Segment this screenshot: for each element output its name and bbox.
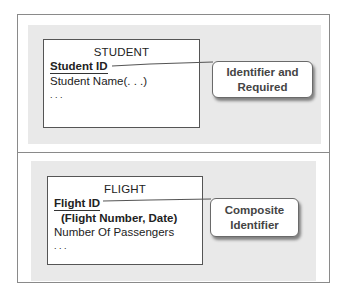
identifier-attribute: Student ID	[50, 60, 108, 74]
entity-title: STUDENT	[44, 45, 199, 59]
attribute-ellipsis: . . .	[48, 239, 202, 253]
entity-title: FLIGHT	[48, 182, 202, 196]
callout-line: Identifier and	[226, 65, 298, 80]
flight-entity-box: FLIGHT Flight ID (Flight Number, Date) N…	[47, 176, 203, 265]
attribute: Number Of Passengers	[48, 225, 202, 239]
section-divider	[17, 152, 330, 153]
identifier-components: (Flight Number, Date)	[48, 211, 202, 225]
student-entity-box: STUDENT Student ID Student Name(. . .) .…	[43, 39, 200, 128]
identifier-attribute: Flight ID	[54, 197, 100, 211]
callout-composite-identifier: Composite Identifier	[210, 198, 299, 237]
attribute: Student Name(. . .)	[44, 74, 199, 88]
callout-line: Composite	[225, 203, 284, 218]
callout-line: Required	[226, 80, 298, 95]
attribute-ellipsis: . . .	[44, 88, 199, 102]
callout-line: Identifier	[225, 218, 284, 233]
callout-identifier-required: Identifier and Required	[212, 61, 313, 98]
